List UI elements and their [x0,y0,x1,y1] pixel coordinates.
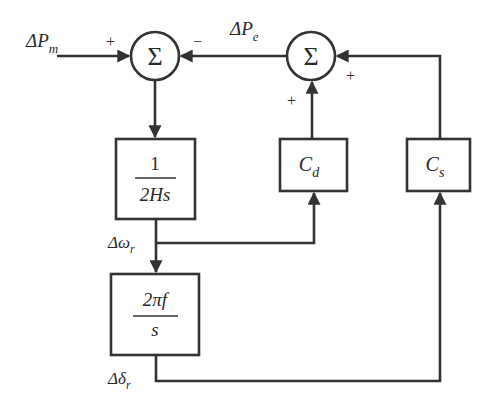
synchronizing-block: Cs [407,139,470,191]
sum1-plus-sign: + [106,33,115,50]
inertia-denominator: 2Hs [140,184,171,205]
signal-delta-pm: ΔPm [25,30,58,56]
sum1-minus-sign: − [193,33,202,50]
sum2-plus-sign-bottom: + [287,92,296,109]
inertia-block: 1 2Hs [116,139,195,219]
summing-junction-2: Σ [287,32,335,80]
sigma-symbol: Σ [303,42,318,71]
block-diagram: ΔPm + Σ − ΔPe Σ + + 1 2Hs Δωr Cd [0,0,489,414]
integrator-block: 2πf s [111,274,199,355]
signal-delta-omega: Δωr [107,233,135,256]
signal-delta-delta: Δδr [107,369,131,392]
signal-delta-pe: ΔPe [229,18,259,44]
sigma-symbol: Σ [147,42,162,71]
summing-junction-1: Σ [131,32,179,80]
sum2-plus-sign-right: + [346,67,355,84]
damping-block: Cd [280,139,347,191]
integrator-denominator: s [151,319,158,340]
integrator-numerator: 2πf [143,289,170,310]
inertia-numerator: 1 [150,153,160,174]
